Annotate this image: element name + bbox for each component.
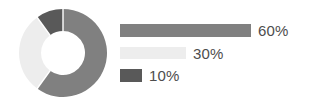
donut-chart <box>19 9 107 97</box>
legend-swatch-bar-10 <box>120 69 142 82</box>
legend-label-10: 10% <box>149 68 180 83</box>
legend-item-10[interactable]: 10% <box>120 67 180 83</box>
legend-label-60: 60% <box>258 23 289 38</box>
legend-swatch-bar-60 <box>120 24 251 37</box>
donut-chart-svg <box>19 9 107 97</box>
legend-item-60[interactable]: 60% <box>120 22 289 38</box>
legend-label-30: 30% <box>193 46 224 61</box>
legend-swatch-bar-30 <box>120 47 186 59</box>
chart-canvas: 60% 30% 10% <box>0 0 309 108</box>
legend-item-30[interactable]: 30% <box>120 45 224 61</box>
chart-legend: 60% 30% 10% <box>120 22 309 90</box>
